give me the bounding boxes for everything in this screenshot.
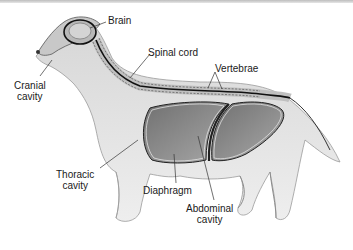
label-spinal-cord: Spinal cord: [148, 47, 198, 58]
label-abdominal-cavity: Abdominal cavity: [186, 203, 233, 225]
label-brain: Brain: [108, 15, 131, 26]
label-diaphragm: Diaphragm: [143, 185, 192, 196]
label-cranial-cavity: Cranial cavity: [14, 80, 46, 102]
dog-illustration: [0, 0, 353, 250]
brain: [69, 23, 91, 39]
nose: [36, 50, 40, 54]
label-vertebrae: Vertebrae: [215, 63, 258, 74]
label-thoracic-cavity: Thoracic cavity: [56, 169, 94, 191]
